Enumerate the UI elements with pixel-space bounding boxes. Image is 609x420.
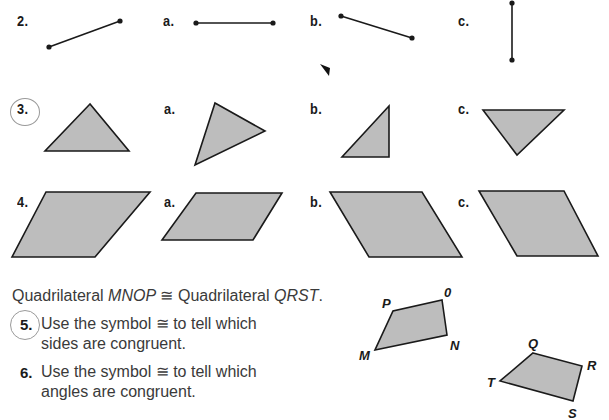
- parallelogram-4b: [330, 192, 462, 257]
- statement-middle: Quadrilateral: [178, 287, 274, 304]
- question-6-line-2: angles are congruent.: [41, 382, 257, 402]
- parallelogram-4a: [162, 193, 282, 240]
- question-5-number: 5.: [20, 316, 33, 333]
- statement-second-shape: QRST: [274, 287, 318, 304]
- triangle-3b: [342, 106, 389, 157]
- statement-suffix: .: [318, 287, 322, 304]
- segment-2: [46, 18, 122, 49]
- question-6-number: 6.: [20, 364, 33, 381]
- question-6-line-1: Use the symbol ≅ to tell which: [41, 362, 257, 382]
- statement-prefix: Quadrilateral: [12, 287, 108, 304]
- triangle-3c: [483, 110, 564, 155]
- vertex-label-s: S: [568, 406, 577, 420]
- vertex-label-t: T: [487, 375, 496, 390]
- segment-2b: [338, 13, 414, 40]
- vertex-label-p: P: [382, 296, 391, 311]
- question-6-text: Use the symbol ≅ to tell which angles ar…: [41, 362, 257, 402]
- triangle-3a: [195, 103, 265, 165]
- quadrilateral-qrst: [500, 353, 582, 401]
- arrow-marker-icon: [320, 64, 330, 76]
- segment-2c: [509, 0, 514, 62]
- question-5-line-1: Use the symbol ≅ to tell which: [41, 314, 257, 334]
- question-5-text: Use the symbol ≅ to tell which sides are…: [41, 314, 257, 354]
- vertex-label-r: R: [587, 358, 597, 373]
- statement-first-shape: MNOP: [108, 287, 156, 304]
- vertex-label-o: 0: [444, 285, 452, 300]
- vertex-label-m: M: [359, 348, 371, 363]
- parallelogram-4c: [479, 191, 598, 256]
- segment-2a: [193, 20, 275, 25]
- congruence-statement: Quadrilateral MNOP ≅ Quadrilateral QRST.: [12, 286, 323, 306]
- vertex-label-q: Q: [528, 336, 538, 351]
- triangle-3: [45, 104, 129, 151]
- statement-symbol: ≅: [156, 287, 178, 304]
- vertex-label-n: N: [450, 338, 460, 353]
- figures-canvas: M N 0 P Q R S T: [0, 0, 609, 420]
- question-5-line-2: sides are congruent.: [41, 334, 257, 354]
- parallelogram-4: [12, 192, 150, 257]
